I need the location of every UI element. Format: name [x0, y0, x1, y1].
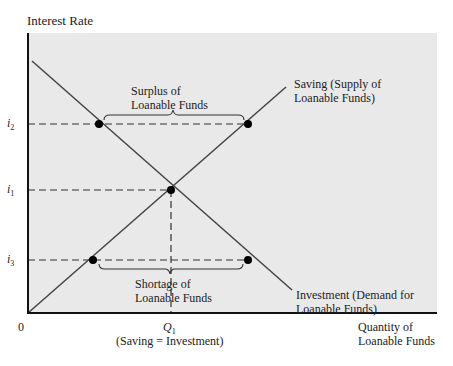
investment-curve-label-line2: Loanable Funds) [296, 302, 377, 316]
origin-label: 0 [18, 320, 24, 334]
x-axis-title-line1: Quantity of [358, 320, 413, 334]
shortage-label-line2: Loanable Funds [135, 291, 212, 305]
y-axis-title: Interest Rate [27, 14, 93, 28]
point-investment-i2 [95, 120, 103, 128]
tick-i1: i1 [7, 182, 14, 201]
saving-curve-label-line2: Loanable Funds) [294, 91, 375, 105]
loanable-funds-diagram [0, 0, 453, 366]
point-saving-i2 [244, 120, 252, 128]
surplus-label-line2: Loanable Funds [131, 98, 208, 112]
plot-area [28, 33, 437, 313]
x-axis-title-line2: Loanable Funds [358, 334, 435, 348]
point-investment-i3 [244, 256, 252, 264]
shortage-label-line1: Shortage of [135, 277, 191, 291]
tick-i2: i2 [7, 116, 14, 135]
q1-note: (Saving = Investment) [116, 334, 223, 348]
saving-curve-label-line1: Saving (Supply of [294, 77, 381, 91]
point-saving-i3 [89, 256, 97, 264]
point-equilibrium [167, 186, 175, 194]
tick-i3: i3 [7, 252, 14, 271]
investment-curve-label-line1: Investment (Demand for [296, 288, 414, 302]
surplus-label-line1: Surplus of [131, 84, 181, 98]
